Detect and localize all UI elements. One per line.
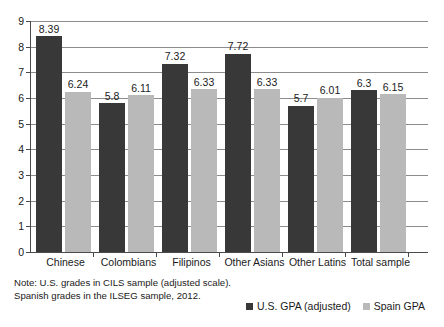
x-tick-0 (93, 252, 94, 257)
plot-area: 9 8 7 6 5 4 3 2 (30, 21, 428, 252)
bar-value-spain-colombians: 6.11 (131, 83, 151, 94)
legend-item-us-gpa[interactable]: U.S. GPA (adjusted) (246, 301, 351, 312)
bar-spain-chinese[interactable]: 6.24 (65, 92, 91, 252)
bar-spain-other-asians[interactable]: 6.33 (254, 89, 280, 252)
y-tick-label-0: 0 (18, 247, 24, 258)
chart-note: Note: U.S. grades in CILS sample (adjust… (14, 277, 231, 302)
x-label-other-latins: Other Latins (289, 257, 346, 268)
bar-value-us-total-sample: 6.3 (357, 78, 372, 89)
x-label-filipinos: Filipinos (172, 257, 211, 268)
bar-value-spain-filipinos: 6.33 (194, 77, 214, 88)
bar-group-filipinos: 7.32 6.33 Filipinos (160, 21, 223, 252)
x-label-colombians: Colombians (101, 257, 156, 268)
bar-us-filipinos[interactable]: 7.32 (162, 64, 188, 252)
bar-us-colombians[interactable]: 5.8 (99, 103, 125, 252)
bar-chart-figure: 9 8 7 6 5 4 3 2 (0, 0, 444, 327)
bar-spain-other-latins[interactable]: 6.01 (317, 98, 343, 252)
bar-value-spain-chinese: 6.24 (68, 79, 88, 90)
y-tick-label-7: 7 (18, 67, 24, 78)
chart-note-line-1: Note: U.S. grades in CILS sample (adjust… (14, 277, 231, 290)
bar-spain-total-sample[interactable]: 6.15 (380, 94, 406, 252)
bar-group-other-asians: 7.72 6.33 Other Asians (223, 21, 286, 252)
bar-group-other-latins: 5.7 6.01 Other Latins (286, 21, 349, 252)
bar-spain-filipinos[interactable]: 6.33 (191, 89, 217, 252)
y-tick-label-6: 6 (18, 93, 24, 104)
x-tick-2 (219, 252, 220, 257)
legend-swatch-us-gpa (246, 303, 253, 310)
bar-us-total-sample[interactable]: 6.3 (351, 90, 377, 252)
bar-value-us-other-latins: 5.7 (294, 93, 309, 104)
bar-value-spain-other-asians: 6.33 (257, 77, 277, 88)
bar-spain-colombians[interactable]: 6.11 (128, 95, 154, 252)
y-tick-label-9: 9 (18, 16, 24, 27)
bar-group-total-sample: 6.3 6.15 Total sample (349, 21, 412, 252)
bar-group-chinese: 8.39 6.24 Chinese (34, 21, 97, 252)
x-label-total-sample: Total sample (351, 257, 410, 268)
bar-us-other-latins[interactable]: 5.7 (288, 106, 314, 253)
bar-value-us-chinese: 8.39 (39, 24, 59, 35)
bar-value-us-colombians: 5.8 (105, 91, 120, 102)
legend-label-us-gpa: U.S. GPA (adjusted) (257, 301, 351, 312)
y-axis-line (30, 21, 31, 253)
y-tick-label-8: 8 (18, 41, 24, 52)
bar-group-colombians: 5.8 6.11 Colombians (97, 21, 160, 252)
y-tick-label-4: 4 (18, 144, 24, 155)
bar-value-spain-total-sample: 6.15 (383, 82, 403, 93)
y-tick-label-5: 5 (18, 118, 24, 129)
bar-us-other-asians[interactable]: 7.72 (225, 54, 251, 252)
chart-note-line-2: Spanish grades in the ILSEG sample, 2012… (14, 290, 231, 303)
x-label-other-asians: Other Asians (224, 257, 284, 268)
bar-value-us-filipinos: 7.32 (165, 51, 185, 62)
legend-label-spain-gpa: Spain GPA (374, 301, 425, 312)
chart-legend: U.S. GPA (adjusted) Spain GPA (246, 301, 425, 312)
legend-item-spain-gpa[interactable]: Spain GPA (363, 301, 425, 312)
y-tick-label-2: 2 (18, 195, 24, 206)
bar-value-spain-other-latins: 6.01 (320, 85, 340, 96)
y-tick-label-1: 1 (18, 221, 24, 232)
x-axis-line (30, 252, 428, 253)
y-tick-label-3: 3 (18, 170, 24, 181)
bar-us-chinese[interactable]: 8.39 (36, 36, 62, 252)
legend-swatch-spain-gpa (363, 303, 370, 310)
bar-value-us-other-asians: 7.72 (228, 41, 248, 52)
x-label-chinese: Chinese (46, 257, 85, 268)
